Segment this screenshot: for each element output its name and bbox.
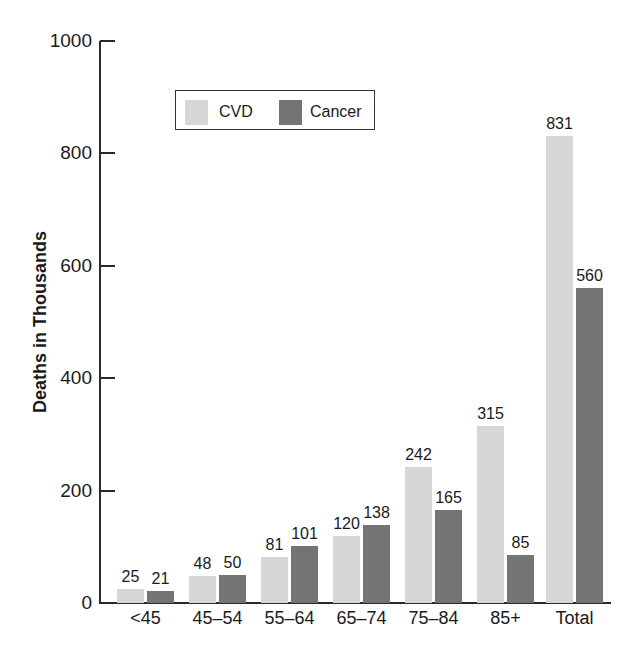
y-tick-label: 1000 (12, 31, 92, 51)
data-label: 165 (424, 489, 474, 507)
bar-cancer (435, 510, 462, 603)
legend: CVD Cancer (175, 90, 375, 130)
legend-swatch-cvd (185, 100, 208, 125)
legend-swatch-cancer (279, 100, 302, 125)
y-tick (100, 490, 115, 492)
y-tick (100, 602, 115, 604)
y-tick-label: 200 (12, 481, 92, 501)
y-tick-label: 800 (12, 143, 92, 163)
data-label: 315 (466, 405, 516, 423)
data-label: 560 (565, 267, 615, 285)
bar-cancer (576, 288, 603, 603)
bar-cvd (261, 557, 288, 603)
bar-cancer (507, 555, 534, 603)
x-category-label: 55–64 (250, 608, 330, 628)
bar-cancer (291, 546, 318, 603)
bar-cancer (363, 525, 390, 603)
x-category-label: 45–54 (178, 608, 258, 628)
x-category-label: 65–74 (322, 608, 402, 628)
x-category-label: Total (535, 608, 615, 628)
legend-label-cancer: Cancer (310, 102, 362, 122)
bar-chart: Deaths in Thousands 02004006008001000 25… (0, 0, 632, 648)
y-tick (100, 40, 115, 42)
data-label: 50 (208, 554, 258, 572)
data-label: 831 (535, 115, 585, 133)
x-category-label: 75–84 (394, 608, 474, 628)
bar-cvd (333, 536, 360, 603)
y-tick (100, 377, 115, 379)
data-label: 242 (394, 446, 444, 464)
data-label: 85 (496, 534, 546, 552)
bar-cvd (117, 589, 144, 603)
bar-cvd (546, 136, 573, 603)
y-tick (100, 152, 115, 154)
legend-label-cvd: CVD (219, 102, 253, 122)
x-category-label: <45 (106, 608, 186, 628)
bar-cvd (477, 426, 504, 603)
y-tick (100, 265, 115, 267)
bar-cancer (219, 575, 246, 603)
bar-cvd (189, 576, 216, 603)
y-tick-label: 400 (12, 368, 92, 388)
x-category-label: 85+ (466, 608, 546, 628)
y-axis-line (99, 41, 101, 604)
bar-cancer (147, 591, 174, 603)
bar-cvd (405, 467, 432, 603)
data-label: 138 (352, 504, 402, 522)
y-tick-label: 0 (12, 593, 92, 613)
y-tick-label: 600 (12, 256, 92, 276)
